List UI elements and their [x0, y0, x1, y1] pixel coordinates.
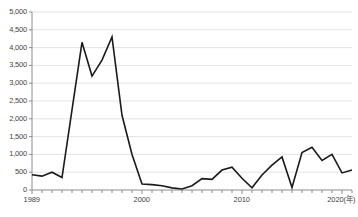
y-axis-tick-label: 2,500 [1, 97, 27, 105]
chart-canvas [0, 0, 358, 217]
y-axis-tick-label: 4,000 [1, 44, 27, 52]
y-axis-tick-label: 1,500 [1, 133, 27, 141]
y-axis-tick-label: 2,000 [1, 115, 27, 123]
y-axis-tick-label: 1,000 [1, 150, 27, 158]
y-axis-tick-label: 5,000 [1, 8, 27, 16]
x-axis-ticks [32, 190, 352, 194]
x-axis-tick-label: 1989 [24, 195, 40, 204]
y-axis-tick-label: 4,500 [1, 26, 27, 34]
y-axis-tick-label: 500 [1, 168, 27, 176]
gridlines [32, 12, 352, 172]
y-axis-tick-label: 3,500 [1, 61, 27, 69]
x-axis-tick-label: 2020(年) [327, 195, 355, 204]
y-axis-tick-label: 0 [1, 186, 27, 194]
line-chart: 5,0004,5004,0003,5003,0002,5002,0001,500… [0, 0, 358, 217]
x-axis-tick-label: 2010 [234, 195, 250, 204]
x-axis-tick-label: 2000 [134, 195, 150, 204]
data-series-line [32, 37, 352, 189]
y-axis-tick-label: 3,000 [1, 79, 27, 87]
